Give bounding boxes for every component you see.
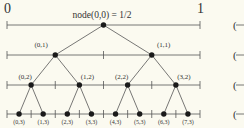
node-label: (0,3) [13, 119, 25, 126]
node-label: (3,3) [86, 119, 98, 126]
tree-edge [19, 85, 31, 114]
tree-node [77, 82, 82, 87]
right-margin-mark: ( [233, 79, 237, 92]
node-label: (2,2) [115, 73, 129, 81]
tree-edge [104, 25, 152, 55]
right-margin-marks: (((( [233, 19, 244, 121]
tree-edge [55, 55, 79, 85]
tree-node [173, 82, 178, 87]
node-label: (6,3) [158, 119, 170, 126]
axis-right-label: 1 [197, 1, 204, 16]
tree-edge [116, 85, 128, 114]
tree-nodes [16, 22, 190, 116]
node-label: (1,3) [37, 119, 49, 126]
tree-edge [55, 25, 103, 55]
node-label: (5,3) [134, 119, 146, 126]
tree-edge [31, 85, 43, 114]
node-label: (3,2) [177, 73, 191, 81]
tree-node [16, 111, 21, 116]
binary-tree-diagram: (0,1)(1,1)(0,2)(1,2)(2,2)(3,2)(0,3)(1,3)… [0, 0, 244, 128]
tree-edge [79, 85, 91, 114]
right-margin-mark: ( [233, 19, 237, 32]
axis-left-label: 0 [4, 1, 11, 16]
tree-node [28, 82, 33, 87]
tree-node [137, 111, 142, 116]
tree-node [185, 111, 190, 116]
tree-edge [128, 85, 140, 114]
tree-node [161, 111, 166, 116]
tree-edge [31, 55, 55, 85]
node-label: (0,2) [18, 73, 32, 81]
node-label: (7,3) [182, 119, 194, 126]
tree-node [89, 111, 94, 116]
interval-lines [7, 21, 200, 118]
right-margin-mark: ( [233, 108, 237, 121]
tree-node [101, 22, 106, 27]
tree-edge [152, 55, 176, 85]
tree-edge [128, 55, 152, 85]
tree-node [53, 52, 58, 57]
node-label: (1,1) [157, 41, 171, 49]
tree-edges [19, 25, 188, 114]
tree-node [65, 111, 70, 116]
tree-node [125, 82, 130, 87]
right-margin-mark: ( [233, 49, 237, 62]
node-label: (0,1) [35, 41, 49, 49]
tree-edge [67, 85, 79, 114]
root-node-label: node(0,0) = 1/2 [73, 10, 132, 21]
node-label: (2,3) [62, 119, 74, 126]
tree-edge [176, 85, 188, 114]
node-label: (4,3) [110, 119, 122, 126]
node-label: (1,2) [81, 73, 95, 81]
tree-node [113, 111, 118, 116]
tree-node [149, 52, 154, 57]
tree-edge [164, 85, 176, 114]
tree-node [40, 111, 45, 116]
